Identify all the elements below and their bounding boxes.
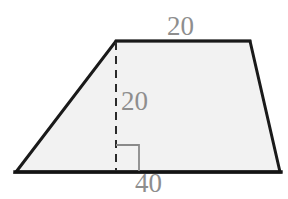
top-side-length-label: 20 xyxy=(167,13,194,40)
trapezoid-shape xyxy=(16,41,280,172)
base-segment-length-label: 40 xyxy=(135,170,162,197)
figure-canvas: 20 20 40 xyxy=(0,0,288,199)
height-length-label: 20 xyxy=(121,88,148,115)
